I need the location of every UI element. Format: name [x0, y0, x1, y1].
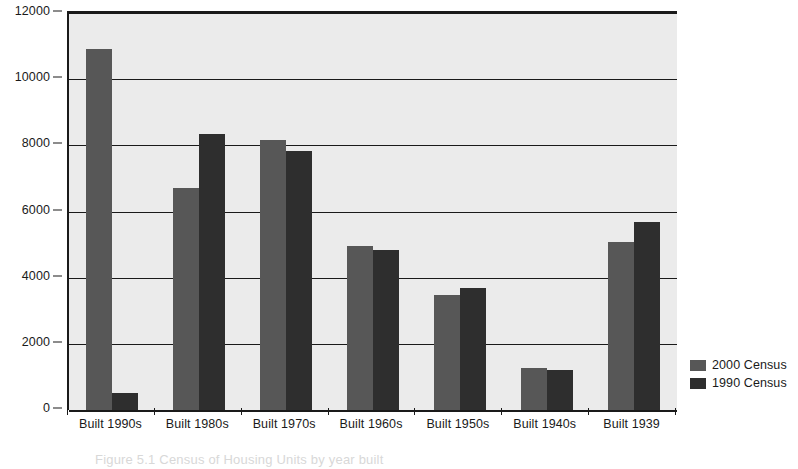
x-axis-labels: Built 1990sBuilt 1980sBuilt 1970sBuilt 1…	[67, 417, 675, 431]
figure-caption: Figure 5.1 Census of Housing Units by ye…	[95, 450, 655, 469]
x-tick-mark	[588, 408, 589, 415]
bar-built-1940s-1990-census	[547, 370, 573, 410]
bar-built-1950s-1990-census	[460, 288, 486, 410]
x-tick-mark	[154, 408, 155, 415]
chart-legend: 2000 Census1990 Census	[690, 358, 787, 390]
legend-item: 1990 Census	[690, 376, 787, 390]
y-tick-label: 0	[43, 401, 50, 415]
x-tick-mark	[414, 408, 415, 415]
bars-layer	[69, 13, 677, 410]
bar-built-1980s-2000-census	[173, 188, 199, 410]
x-category-label: Built 1960s	[328, 417, 415, 431]
bar-group	[243, 13, 330, 410]
bar-group	[330, 13, 417, 410]
x-category-label: Built 1970s	[241, 417, 328, 431]
x-tick-mark	[501, 408, 502, 415]
x-category-label: Built 1980s	[154, 417, 241, 431]
y-tick-label: 8000	[22, 136, 50, 150]
legend-label: 2000 Census	[712, 358, 787, 372]
bar-built-1990s-2000-census	[86, 49, 112, 410]
legend-item: 2000 Census	[690, 358, 787, 372]
bar-chart-figure: 020004000600080001000012000 Built 1990sB…	[0, 0, 798, 469]
y-tick-label: 4000	[22, 269, 50, 283]
bar-group	[590, 13, 677, 410]
y-tick-label: 2000	[22, 335, 50, 349]
y-tick-mark	[53, 77, 62, 78]
y-tick-mark	[53, 11, 62, 12]
x-category-label: Built 1939	[588, 417, 675, 431]
y-tick-label: 6000	[22, 203, 50, 217]
bar-built-1970s-2000-census	[260, 140, 286, 410]
bar-built-1970s-1990-census	[286, 151, 312, 410]
y-tick-mark	[53, 143, 62, 144]
bar-built-1940s-2000-census	[521, 368, 547, 410]
legend-label: 1990 Census	[712, 376, 787, 390]
bar-built-1980s-1990-census	[199, 134, 225, 410]
y-tick-label: 10000	[15, 70, 50, 84]
legend-swatch-icon	[690, 378, 706, 389]
y-tick-label: 12000	[15, 4, 50, 18]
y-axis: 020004000600080001000012000	[0, 0, 62, 420]
x-tick-mark	[241, 408, 242, 415]
bar-group	[416, 13, 503, 410]
y-tick-mark	[53, 408, 62, 409]
x-category-label: Built 1940s	[501, 417, 588, 431]
bar-group	[503, 13, 590, 410]
y-tick-mark	[53, 341, 62, 342]
x-tick-mark	[328, 408, 329, 415]
bar-built-1950s-2000-census	[434, 295, 460, 410]
bar-built-1939-2000-census	[608, 242, 634, 410]
x-tick-mark	[675, 408, 676, 415]
figure-caption-text: Figure 5.1 Census of Housing Units by ye…	[95, 450, 655, 469]
y-tick-mark	[53, 209, 62, 210]
legend-swatch-icon	[690, 360, 706, 371]
bar-group	[69, 13, 156, 410]
plot-area	[67, 11, 677, 410]
x-category-label: Built 1950s	[414, 417, 501, 431]
x-axis-ticks	[67, 408, 677, 416]
x-tick-mark	[67, 408, 68, 415]
bar-built-1960s-1990-census	[373, 250, 399, 410]
bar-built-1960s-2000-census	[347, 246, 373, 410]
x-category-label: Built 1990s	[67, 417, 154, 431]
bar-built-1939-1990-census	[634, 222, 660, 410]
bar-group	[156, 13, 243, 410]
y-tick-mark	[53, 275, 62, 276]
